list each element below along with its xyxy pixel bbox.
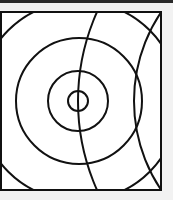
concentric-circles-diagram bbox=[0, 0, 173, 200]
